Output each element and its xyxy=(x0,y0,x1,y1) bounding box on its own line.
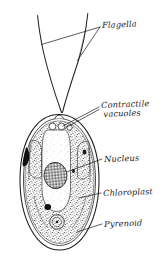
label-nucleus-line-1: Nucleus xyxy=(104,154,139,165)
label-flagella: Flagella xyxy=(102,20,137,31)
eyespot-lower xyxy=(45,204,52,210)
label-chloroplast-line-1: Chloroplast xyxy=(103,187,153,198)
label-flagella-line-1: Flagella xyxy=(102,20,137,31)
contractile-vacuole-right xyxy=(58,123,65,130)
leader-flagella-to-left xyxy=(42,27,101,45)
pyrenoid-core xyxy=(56,221,59,224)
figure-canvas: Flagella Contractile vacuoles Nucleus Ch… xyxy=(0,0,165,265)
label-contractile-vacuoles-line-2: vacuoles xyxy=(103,108,149,119)
label-pyrenoid-line-1: Pyrenoid xyxy=(104,219,142,230)
flagella-group xyxy=(38,14,88,113)
label-nucleus: Nucleus xyxy=(104,154,139,165)
flagellum-left-stroke xyxy=(38,16,62,113)
leader-flagella-to-right xyxy=(78,27,101,61)
granule-upper-right xyxy=(83,149,87,154)
label-pyrenoid: Pyrenoid xyxy=(104,219,142,230)
label-contractile-vacuoles: Contractile vacuoles xyxy=(101,99,150,119)
contractile-vacuole-left xyxy=(49,123,56,130)
flagellum-right-kink xyxy=(78,31,85,61)
flagellum-right-stroke xyxy=(63,14,88,113)
label-chloroplast: Chloroplast xyxy=(103,187,153,198)
cell-body-group xyxy=(20,115,99,251)
